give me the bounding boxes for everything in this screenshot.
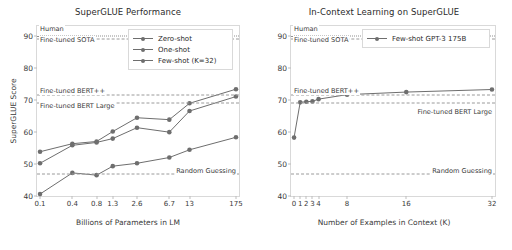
x-axis-tick: 16 [402, 200, 411, 208]
data-point [70, 141, 75, 146]
data-point [490, 87, 495, 92]
data-point [234, 87, 239, 92]
data-point [94, 139, 99, 144]
data-point [187, 148, 192, 153]
x-axis-tick: 6.7 [164, 200, 175, 208]
data-point [316, 97, 321, 102]
y-axis-tick: 50 [277, 159, 287, 168]
legend-item-few-shot-gpt3[interactable]: Few-shot GPT-3 175B [367, 33, 484, 44]
series-line-2 [40, 89, 236, 152]
x-axis-label-left: Billions of Parameters in LM [0, 218, 256, 227]
x-axis-label-right: Number of Examples in Context (K) [256, 218, 512, 227]
legend-item-one-shot[interactable]: One-shot [133, 44, 227, 55]
data-point [167, 130, 172, 135]
y-axis-tick: 40 [277, 192, 287, 201]
legend-label: Zero-shot [158, 35, 192, 43]
y-axis-tick: 90 [23, 31, 33, 40]
x-axis-tick: 3 [310, 200, 314, 208]
y-axis-tickmark [288, 163, 291, 164]
y-axis-tickmark [288, 67, 291, 68]
legend-item-few-shot[interactable]: Few-shot (K=32) [133, 55, 227, 66]
legend-right: Few-shot GPT-3 175B [362, 29, 490, 48]
legend-label: Few-shot GPT-3 175B [392, 35, 466, 43]
x-axis-tickmark [112, 196, 113, 199]
reference-line-label: Human [293, 25, 319, 33]
y-axis-tick: 40 [23, 192, 33, 201]
reference-line-label: Fine-tuned SOTA [293, 36, 349, 44]
y-axis-tick: 60 [277, 127, 287, 136]
x-axis-tickmark [72, 196, 73, 199]
chart-title-left: SuperGLUE Performance [0, 7, 256, 17]
chart-panel-right: In-Context Learning on SuperGLUE Number … [256, 0, 512, 250]
reference-line-label: Fine-tuned SOTA [39, 36, 95, 44]
series-line-0 [40, 137, 236, 194]
reference-line-label: Fine-tuned BERT Large [39, 102, 116, 110]
data-point [167, 117, 172, 122]
x-axis-tickmark [294, 196, 295, 199]
x-axis-tickmark [136, 196, 137, 199]
y-axis-tickmark [34, 163, 37, 164]
x-axis-tick: 2.6 [131, 200, 142, 208]
data-point [234, 135, 239, 140]
x-axis-tickmark [189, 196, 190, 199]
figure-canvas: SuperGLUE Performance SuperGLUE Score Bi… [0, 0, 512, 250]
data-point [135, 115, 140, 120]
y-axis-tick: 60 [23, 127, 33, 136]
x-axis-tickmark [406, 196, 407, 199]
chart-title-right: In-Context Learning on SuperGLUE [256, 7, 512, 17]
legend-item-zero-shot[interactable]: Zero-shot [133, 33, 227, 44]
y-axis-tick: 80 [277, 63, 287, 72]
legend-left: Zero-shot One-shot Few-shot (K=32) [128, 29, 233, 70]
x-axis-tickmark [312, 196, 313, 199]
x-axis-tick: 0.8 [91, 200, 102, 208]
x-axis-tick: 13 [185, 200, 194, 208]
x-axis-tickmark [318, 196, 319, 199]
x-axis-tick: 4 [316, 200, 320, 208]
reference-line-label: Fine-tuned BERT++ [39, 87, 106, 95]
x-axis-tickmark [306, 196, 307, 199]
x-axis-tick: 0 [292, 200, 296, 208]
data-point [135, 125, 140, 130]
x-axis-tickmark [235, 196, 236, 199]
legend-swatch-icon [133, 38, 153, 39]
x-axis-tick: 0.4 [67, 200, 78, 208]
reference-line [291, 102, 495, 103]
x-axis-tick: 32 [487, 200, 496, 208]
data-point [292, 135, 297, 140]
legend-label: Few-shot (K=32) [158, 57, 216, 65]
x-axis-tickmark [491, 196, 492, 199]
y-axis-tickmark [34, 99, 37, 100]
y-axis-tickmark [288, 196, 291, 197]
x-axis-tickmark [169, 196, 170, 199]
x-axis-tick: 8 [345, 200, 349, 208]
x-axis-tickmark [347, 196, 348, 199]
x-axis-tick: 175 [229, 200, 242, 208]
x-axis-tick: 0.1 [34, 200, 45, 208]
x-axis-tick: 2 [304, 200, 308, 208]
y-axis-label-left: SuperGLUE Score [9, 78, 18, 143]
data-point [110, 129, 115, 134]
y-axis-tickmark [34, 196, 37, 197]
data-point [135, 161, 140, 166]
y-axis-tickmark [34, 67, 37, 68]
legend-swatch-icon [133, 49, 153, 50]
y-axis-tick: 70 [277, 95, 287, 104]
data-point [38, 149, 43, 154]
x-axis-tickmark [40, 196, 41, 199]
reference-line-label: Human [39, 25, 65, 33]
y-axis-tick: 50 [23, 159, 33, 168]
y-axis-tickmark [288, 99, 291, 100]
y-axis-tick: 80 [23, 63, 33, 72]
reference-line-label: Fine-tuned BERT Large [416, 108, 493, 116]
x-axis-tickmark [96, 196, 97, 199]
y-axis-tick: 70 [23, 95, 33, 104]
data-point [38, 161, 43, 166]
legend-swatch-icon [367, 38, 387, 39]
x-axis-tickmark [300, 196, 301, 199]
data-point [187, 109, 192, 114]
reference-line-label: Random Guessing [175, 167, 237, 175]
legend-label: One-shot [158, 46, 190, 54]
data-point [110, 164, 115, 169]
y-axis-tickmark [288, 131, 291, 132]
reference-line-label: Random Guessing [431, 167, 493, 175]
